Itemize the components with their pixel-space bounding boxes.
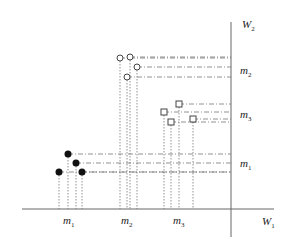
square-marker xyxy=(161,109,167,115)
right-label-m1: m1 xyxy=(240,157,251,172)
open-circle-marker xyxy=(124,74,130,80)
square-marker xyxy=(168,119,174,125)
filled-circle-marker xyxy=(79,169,86,176)
scatter-plot xyxy=(0,0,291,247)
w2-axis-label: W2 xyxy=(242,18,255,33)
open-circle-marker xyxy=(127,54,133,60)
filled-circle-marker xyxy=(56,169,63,176)
square-marker xyxy=(176,101,182,107)
open-circle-marker xyxy=(134,64,140,70)
w1-axis-label: W1 xyxy=(262,215,275,230)
bottom-label-m2: m2 xyxy=(121,214,132,229)
right-label-m3: m3 xyxy=(240,108,251,123)
filled-circle-marker xyxy=(73,160,80,167)
bottom-label-m1: m1 xyxy=(63,214,74,229)
bottom-label-m3: m3 xyxy=(173,214,184,229)
open-circle-marker xyxy=(117,55,123,61)
filled-circle-marker xyxy=(65,151,72,158)
square-marker xyxy=(190,116,196,122)
right-label-m2: m2 xyxy=(240,64,251,79)
